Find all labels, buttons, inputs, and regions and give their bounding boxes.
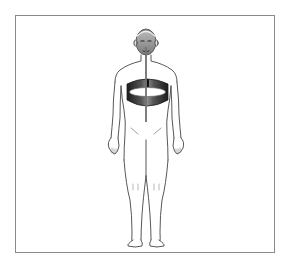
right-leg bbox=[146, 160, 168, 244]
right-hand bbox=[173, 138, 184, 154]
human-figure-illustration bbox=[0, 0, 293, 264]
left-arm bbox=[111, 82, 121, 138]
right-foot bbox=[150, 240, 164, 247]
left-leg bbox=[124, 160, 146, 244]
left-foot bbox=[128, 240, 142, 247]
chest-respiratory-belt bbox=[127, 79, 168, 106]
left-hand bbox=[108, 138, 119, 154]
right-arm bbox=[171, 82, 181, 138]
